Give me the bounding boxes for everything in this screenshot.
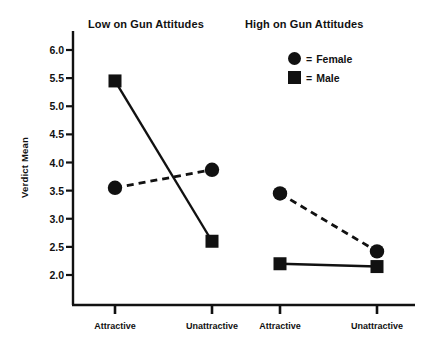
series-line-female: [115, 170, 212, 188]
data-point-square: [274, 257, 287, 270]
series-line-male: [115, 81, 212, 241]
data-point-square: [371, 260, 384, 273]
data-point-square: [109, 74, 122, 87]
chart-figure: Low on Gun Attitudes High on Gun Attitud…: [0, 0, 426, 348]
data-point-circle: [205, 163, 219, 177]
series-group: [108, 74, 384, 273]
data-point-circle: [370, 244, 384, 258]
data-point-square: [206, 235, 219, 248]
data-point-circle: [108, 181, 122, 195]
series-line-male: [280, 264, 377, 267]
data-point-circle: [273, 186, 287, 200]
plot-area: [0, 0, 426, 348]
axes-group: [66, 31, 415, 314]
series-line-female: [280, 193, 377, 251]
